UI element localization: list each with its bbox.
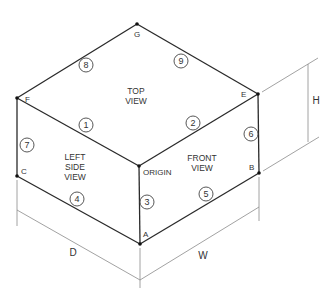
callout-2: 2 xyxy=(186,116,200,130)
dimension-label-height: H xyxy=(312,95,319,106)
svg-text:4: 4 xyxy=(74,194,79,204)
edge-3 xyxy=(139,166,140,244)
vertex-a-dot xyxy=(138,242,142,246)
isometric-box-diagram: G F E ORIGIN C B A TOP VIEW LEFT SIDE VI… xyxy=(0,0,332,298)
callout-6: 6 xyxy=(244,127,258,141)
front-view-label-line1: FRONT xyxy=(187,153,216,163)
left-side-view-label-line2: SIDE xyxy=(65,162,85,172)
svg-text:6: 6 xyxy=(248,129,253,139)
vertex-c-dot xyxy=(15,174,19,178)
svg-text:5: 5 xyxy=(203,189,208,199)
vertex-labels: G F E ORIGIN C B A xyxy=(21,30,254,239)
vertex-label-e: E xyxy=(241,90,246,99)
vertex-g-dot xyxy=(135,22,139,26)
svg-text:7: 7 xyxy=(24,140,29,150)
dimension-label-width: W xyxy=(198,250,208,261)
callout-4: 4 xyxy=(70,192,84,206)
callout-5: 5 xyxy=(199,187,213,201)
front-view-label-line2: VIEW xyxy=(191,163,213,173)
vertex-label-b: B xyxy=(249,163,254,172)
h-extension-top xyxy=(262,58,318,92)
svg-text:3: 3 xyxy=(144,197,149,207)
vertex-dots xyxy=(15,22,261,246)
svg-text:1: 1 xyxy=(83,120,88,130)
callout-1: 1 xyxy=(79,118,93,132)
svg-text:9: 9 xyxy=(178,56,183,66)
vertex-label-g: G xyxy=(134,30,140,39)
callout-9: 9 xyxy=(174,54,188,68)
h-extension-bottom xyxy=(263,137,319,171)
box-edges xyxy=(17,24,259,244)
w-dimension-line xyxy=(140,207,259,280)
face-labels: TOP VIEW LEFT SIDE VIEW FRONT VIEW xyxy=(64,86,217,182)
dimension-label-depth: D xyxy=(69,247,76,258)
svg-text:8: 8 xyxy=(83,60,88,70)
top-view-label-line1: TOP xyxy=(127,86,145,96)
d-dimension-line xyxy=(17,210,140,280)
vertex-label-c: C xyxy=(21,167,27,176)
vertex-b-dot xyxy=(257,171,261,175)
left-side-view-label-line3: VIEW xyxy=(64,172,86,182)
vertex-label-a: A xyxy=(143,230,149,239)
vertex-e-dot xyxy=(256,92,260,96)
vertex-origin-dot xyxy=(137,164,141,168)
vertex-f-dot xyxy=(15,96,19,100)
left-side-view-label-line1: LEFT xyxy=(65,152,86,162)
vertex-label-origin: ORIGIN xyxy=(143,168,172,177)
edge-9 xyxy=(137,24,258,94)
vertex-label-f: F xyxy=(25,95,30,104)
edge-4 xyxy=(17,176,140,244)
callout-7: 7 xyxy=(20,138,34,152)
top-view-label-line2: VIEW xyxy=(125,96,147,106)
callout-3: 3 xyxy=(140,195,154,209)
edge-8 xyxy=(17,24,137,98)
callout-8: 8 xyxy=(79,58,93,72)
edge-5 xyxy=(140,173,259,244)
svg-text:2: 2 xyxy=(190,118,195,128)
